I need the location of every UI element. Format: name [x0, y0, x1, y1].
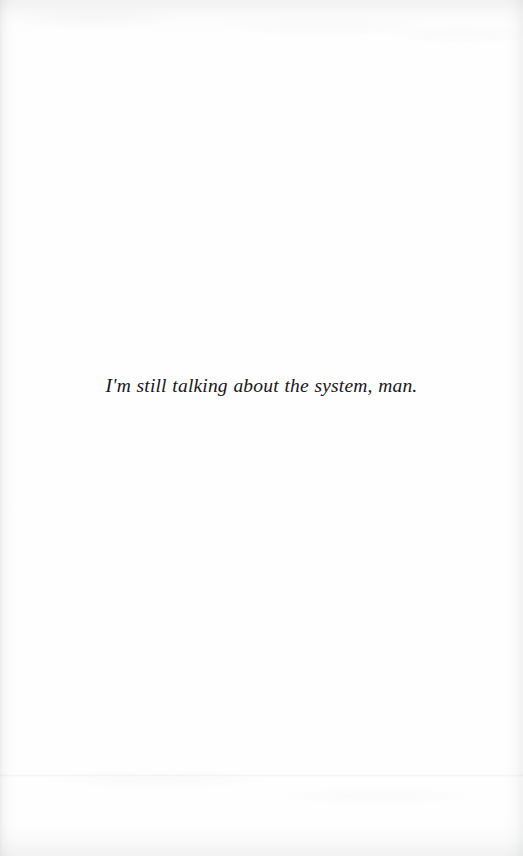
epigraph-block: I'm still talking about the system, man. — [0, 373, 523, 399]
book-page: I'm still talking about the system, man. — [0, 0, 523, 856]
scan-edge-right — [503, 0, 523, 856]
scan-edge-bottom — [0, 816, 523, 856]
scan-edge-left — [0, 0, 16, 856]
epigraph-text: I'm still talking about the system, man. — [106, 373, 418, 399]
scan-mottle-texture — [0, 0, 523, 856]
scan-seam-line — [0, 774, 523, 777]
scan-edge-top — [0, 0, 523, 34]
